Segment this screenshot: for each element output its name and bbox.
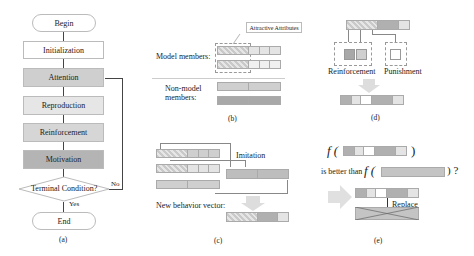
close-paren: ) <box>411 143 415 159</box>
reinforcement-node: Reinforcement <box>23 123 104 142</box>
divider <box>152 78 285 79</box>
down-arrow <box>358 85 380 93</box>
callout-box: Attractive Attributes <box>246 22 302 33</box>
punishment-label: Punishment <box>384 67 422 76</box>
imitation-label: Imitation <box>236 151 265 160</box>
no-label: No <box>111 180 120 188</box>
nonmodel-vector <box>217 82 281 91</box>
arrow <box>63 32 64 41</box>
model-vector <box>217 46 281 55</box>
right-arrow <box>328 185 352 209</box>
caption-b: (b) <box>228 114 237 123</box>
model-vector <box>217 60 281 69</box>
arrow <box>63 115 64 123</box>
caption-c: (c) <box>214 236 222 245</box>
new-vector-label: New behavior vector: <box>156 201 225 210</box>
new-behavior-vector <box>226 212 289 222</box>
arrow <box>63 142 64 150</box>
attention-node: Attention <box>23 68 104 87</box>
updated-vector <box>340 95 404 105</box>
source-vector <box>156 180 220 189</box>
candidate-vector <box>343 146 407 156</box>
begin-node: Begin <box>32 14 96 32</box>
nonmodel-label: Non-model <box>165 84 201 93</box>
model-members-label: Model members: <box>156 52 210 61</box>
end-node: End <box>32 212 96 230</box>
yes-label: Yes <box>69 200 79 208</box>
f-label: f ( <box>364 163 375 179</box>
replaced-vector <box>355 207 419 220</box>
source-vector <box>156 164 220 173</box>
loop-line <box>105 78 122 79</box>
candidate-vector <box>355 188 419 198</box>
f-label: f ( <box>327 143 338 159</box>
condition-label: Terminal Condition? <box>31 184 97 193</box>
reproduction-node: Reproduction <box>23 96 104 115</box>
behavior-vector <box>346 20 410 30</box>
caption-e: (e) <box>374 236 382 245</box>
better-than-label: is better than <box>321 167 362 176</box>
loop-line <box>109 189 122 190</box>
nonmodel-vector <box>217 96 281 105</box>
arrow <box>63 59 64 68</box>
close-paren: ) ? <box>447 164 458 176</box>
current-vector <box>381 167 445 177</box>
caption-a: (a) <box>59 235 67 244</box>
reinforcement-label: Reinforcement <box>328 67 376 76</box>
loop-line <box>122 78 123 190</box>
arrow <box>63 202 64 212</box>
target-vector <box>226 169 289 179</box>
init-node: Initialization <box>23 41 104 59</box>
nonmodel-label: members: <box>165 93 197 102</box>
down-arrow <box>241 203 265 211</box>
arrow <box>63 87 64 96</box>
motivation-node: Motivation <box>23 150 104 169</box>
caption-d: (d) <box>371 113 380 122</box>
source-vector <box>156 149 220 158</box>
